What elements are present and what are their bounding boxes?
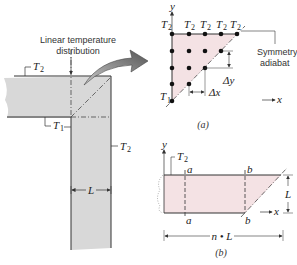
annotation-line2: distribution xyxy=(56,46,100,56)
right-temp-label: T xyxy=(120,140,127,152)
part-a-nodal-network: y x T2 T2 T2 T2 T2 T 1 Symmetry adiabat xyxy=(160,0,297,131)
corner-cross-section xyxy=(4,50,111,250)
svg-text:1: 1 xyxy=(167,96,171,105)
top-boundary-labels: T2 T2 T2 T2 T2 xyxy=(161,18,241,32)
svg-text:2: 2 xyxy=(223,23,227,32)
svg-text:T: T xyxy=(161,18,168,30)
figure-canvas: Linear temperature distribution T 2 T 1 … xyxy=(0,0,297,265)
top-temp-label-b: T xyxy=(177,150,184,162)
origin-label: T xyxy=(160,90,167,102)
svg-text:y: y xyxy=(161,138,167,150)
svg-text:2: 2 xyxy=(168,23,172,32)
svg-text:2: 2 xyxy=(237,23,241,32)
corner-body xyxy=(4,76,111,250)
trapezoid-domain xyxy=(164,175,281,213)
svg-text:T: T xyxy=(216,18,223,30)
svg-text:2: 2 xyxy=(191,23,195,32)
part-b-extended-domain: y T 2 a a b b x L n • L (b) xyxy=(158,138,294,259)
svg-text:y: y xyxy=(169,0,175,12)
corner-temp-label: T xyxy=(53,119,60,131)
caption-b: (b) xyxy=(215,247,227,259)
top-temp-label: T xyxy=(33,60,40,72)
dy-label: Δy xyxy=(222,74,234,86)
svg-text:T: T xyxy=(200,18,207,30)
dx-label: Δx xyxy=(208,86,220,98)
svg-text:T: T xyxy=(230,18,237,30)
caption-a: (a) xyxy=(197,119,209,131)
svg-text:x: x xyxy=(273,205,279,217)
svg-text:2: 2 xyxy=(127,145,131,154)
svg-text:a: a xyxy=(186,214,192,226)
height-label: L xyxy=(284,188,291,200)
svg-text:x: x xyxy=(276,93,282,105)
svg-text:T: T xyxy=(184,18,191,30)
symmetry-label-line1: Symmetry xyxy=(257,47,297,57)
svg-text:b: b xyxy=(245,214,251,226)
width-label: L xyxy=(87,184,94,196)
svg-text:1: 1 xyxy=(60,124,64,133)
svg-text:2: 2 xyxy=(207,23,211,32)
annotation-line1: Linear temperature xyxy=(40,35,116,45)
svg-text:a: a xyxy=(187,163,193,175)
length-label: n • L xyxy=(212,230,233,242)
svg-text:2: 2 xyxy=(40,65,44,74)
svg-text:b: b xyxy=(247,163,253,175)
symmetry-label-line2: adiabat xyxy=(260,58,290,68)
